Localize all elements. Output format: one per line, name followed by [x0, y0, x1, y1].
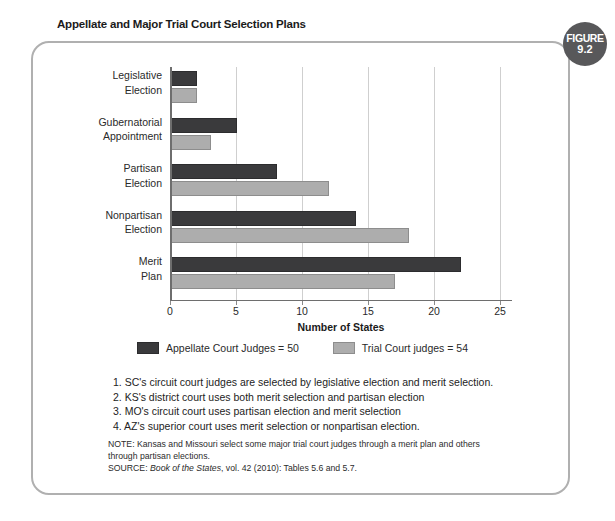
xtick-label-25: 25: [494, 305, 506, 317]
bar-trial-merit-plan: [171, 274, 395, 289]
footnote-1: 1. SC's circuit court judges are selecte…: [113, 375, 533, 390]
note-and-source: NOTE: Kansas and Missouri select some ma…: [108, 439, 538, 475]
category-label-line2: Election: [105, 222, 162, 237]
bar-appellate-partisan-election: [171, 164, 277, 179]
bar-group-merit-plan: Merit Plan: [170, 253, 505, 300]
source-prefix: SOURCE:: [108, 463, 150, 473]
category-label-line2: Appointment: [98, 129, 162, 144]
xtick-label-10: 10: [296, 305, 308, 317]
category-label-merit-plan: Merit Plan: [139, 254, 162, 283]
note-line-2: through partisan elections.: [108, 451, 538, 463]
bar-trial-gubernatorial-appointment: [171, 135, 211, 150]
bar-group-partisan-election: Partisan Election: [170, 160, 505, 207]
x-axis-title: Number of States: [170, 321, 512, 333]
category-label-line1: Partisan: [123, 161, 162, 176]
bar-group-nonpartisan-election: Nonpartisan Election: [170, 207, 505, 254]
page-title: Appellate and Major Trial Court Selectio…: [57, 18, 306, 30]
legend-label-trial: Trial Court judges = 54: [362, 342, 468, 354]
y-axis-line: [170, 67, 172, 300]
bar-group-legislative-election: Legislative Election: [170, 67, 505, 114]
category-label-line2: Election: [112, 83, 162, 98]
legend-item-appellate: Appellate Court Judges = 50: [137, 342, 299, 354]
legend-label-appellate: Appellate Court Judges = 50: [166, 342, 299, 354]
bar-appellate-legislative-election: [171, 71, 197, 86]
xtick-label-20: 20: [428, 305, 440, 317]
category-label-line2: Election: [123, 176, 162, 191]
bar-appellate-merit-plan: [171, 257, 461, 272]
bar-trial-nonpartisan-election: [171, 228, 409, 243]
category-label-line2: Plan: [139, 269, 162, 284]
legend-item-trial: Trial Court judges = 54: [333, 342, 468, 354]
footnote-list: 1. SC's circuit court judges are selecte…: [113, 375, 533, 433]
legend-swatch-trial-icon: [333, 342, 355, 354]
category-label-line1: Nonpartisan: [105, 208, 162, 223]
footnote-3: 3. MO's circuit court uses partisan elec…: [113, 404, 533, 419]
category-label-line1: Merit: [139, 254, 162, 269]
figure-panel: Legislative Election Gubernatorial Appoi…: [31, 41, 570, 495]
legend-swatch-appellate-icon: [137, 342, 159, 354]
bar-appellate-gubernatorial-appointment: [171, 118, 237, 133]
bar-trial-partisan-election: [171, 181, 329, 196]
bar-group-gubernatorial-appointment: Gubernatorial Appointment: [170, 114, 505, 161]
footnote-2: 2. KS's district court uses both merit s…: [113, 390, 533, 405]
category-label-line1: Gubernatorial: [98, 115, 162, 130]
footnote-4: 4. AZ's superior court uses merit select…: [113, 419, 533, 434]
category-label-gubernatorial-appointment: Gubernatorial Appointment: [98, 115, 162, 144]
category-label-partisan-election: Partisan Election: [123, 161, 162, 190]
source-line: SOURCE: Book of the States, vol. 42 (201…: [108, 463, 538, 475]
bar-appellate-nonpartisan-election: [171, 211, 356, 226]
xtick-label-15: 15: [362, 305, 374, 317]
category-label-line1: Legislative: [112, 68, 162, 83]
category-label-nonpartisan-election: Nonpartisan Election: [105, 208, 162, 237]
xtick-label-5: 5: [233, 305, 239, 317]
source-suffix: , vol. 42 (2010): Tables 5.6 and 5.7.: [221, 463, 357, 473]
chart-legend: Appellate Court Judges = 50 Trial Court …: [64, 342, 541, 354]
figure-number-badge: FIGURE 9.2: [563, 22, 607, 66]
figure-badge-number: 9.2: [577, 44, 592, 56]
category-label-legislative-election: Legislative Election: [112, 68, 162, 97]
x-axis-line: [170, 300, 512, 302]
xtick-label-0: 0: [167, 305, 173, 317]
source-title: Book of the States: [150, 463, 221, 473]
chart-plot-area: Legislative Election Gubernatorial Appoi…: [170, 67, 505, 300]
note-line-1: NOTE: Kansas and Missouri select some ma…: [108, 439, 538, 451]
bar-trial-legislative-election: [171, 88, 197, 103]
